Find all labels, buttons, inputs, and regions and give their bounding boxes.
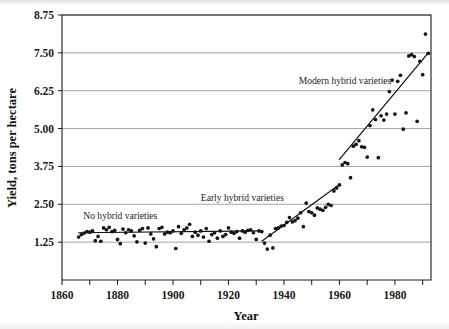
chart-annotation: Early hybrid varieties: [201, 192, 284, 203]
data-point: [357, 139, 361, 143]
data-point: [363, 146, 367, 150]
data-point: [321, 208, 325, 212]
data-point: [374, 118, 378, 122]
data-point: [329, 204, 333, 208]
data-point: [304, 201, 308, 205]
data-point: [177, 225, 181, 229]
data-point: [426, 52, 430, 56]
y-axis-tick-labels: 1.252.503.755.006.257.508.75: [34, 9, 54, 248]
data-point: [354, 142, 358, 146]
data-point: [399, 73, 403, 77]
yield-scatter-chart: 1.252.503.755.006.257.508.75 18601880190…: [0, 0, 449, 329]
data-point: [116, 238, 120, 242]
data-point: [413, 55, 417, 59]
data-point: [105, 228, 109, 232]
data-point: [368, 124, 372, 128]
x-axis-tick-label: 1900: [161, 289, 184, 301]
x-axis-ticks: [58, 15, 423, 285]
data-point: [310, 211, 314, 215]
data-point: [249, 228, 253, 232]
data-point: [113, 228, 117, 232]
data-point: [96, 235, 100, 239]
data-point: [382, 118, 386, 122]
x-axis-title: Year: [234, 309, 259, 323]
data-point: [141, 227, 145, 231]
data-point: [254, 238, 258, 242]
data-point: [401, 127, 405, 131]
y-axis-tick-label: 8.75: [34, 9, 54, 21]
x-axis-tick-labels: 1860188019001920194019601980: [51, 289, 407, 301]
data-point: [349, 176, 353, 180]
data-point: [418, 59, 422, 63]
data-point: [252, 231, 256, 235]
data-point: [324, 205, 328, 209]
x-axis-tick-label: 1940: [272, 289, 295, 301]
data-point: [218, 229, 222, 233]
data-point: [146, 226, 150, 230]
data-point: [216, 236, 220, 240]
data-point: [77, 235, 81, 239]
data-point: [385, 112, 389, 116]
x-axis-tick-label: 1920: [217, 289, 240, 301]
data-point: [313, 213, 317, 217]
data-point: [332, 189, 336, 193]
data-point: [107, 225, 111, 229]
data-point: [204, 227, 208, 231]
data-point: [118, 242, 122, 246]
data-point: [238, 236, 242, 240]
data-point: [191, 235, 195, 239]
data-point: [365, 155, 369, 159]
data-point: [335, 186, 339, 190]
data-point: [132, 234, 136, 238]
data-point: [263, 241, 267, 245]
y-axis-tick-label: 1.25: [34, 236, 54, 248]
data-point: [371, 108, 375, 112]
y-axis-title: Yield, tons per hectare: [5, 88, 19, 208]
data-point: [160, 225, 164, 229]
data-point: [396, 79, 400, 83]
data-point: [224, 233, 228, 237]
data-point: [340, 163, 344, 167]
chart-annotation: No hybrid varieties: [83, 210, 157, 221]
data-point: [121, 227, 125, 231]
data-point: [143, 241, 147, 245]
data-point: [213, 231, 217, 235]
data-point: [193, 230, 197, 234]
data-point: [379, 114, 383, 118]
data-point: [424, 32, 428, 36]
y-axis-tick-label: 2.50: [34, 198, 54, 210]
data-point: [179, 232, 183, 236]
data-point: [188, 222, 192, 226]
data-point: [282, 224, 286, 228]
annotations-group: No hybrid varietiesEarly hybrid varietie…: [83, 75, 391, 220]
data-point: [196, 233, 200, 237]
data-point: [265, 247, 269, 251]
data-point: [154, 245, 158, 249]
y-axis-tick-label: 3.75: [34, 160, 54, 172]
trend-line: [339, 53, 428, 160]
data-point: [152, 237, 156, 241]
data-point: [404, 111, 408, 115]
data-point: [130, 229, 134, 233]
data-point: [185, 226, 189, 230]
x-axis-tick-label: 1880: [106, 289, 129, 301]
data-point: [91, 229, 95, 233]
data-point: [93, 239, 97, 243]
y-axis-tick-label: 7.50: [34, 47, 54, 59]
data-point: [288, 216, 292, 220]
chart-annotation: Modern hybrid varieties: [299, 75, 392, 86]
data-point: [99, 239, 103, 243]
data-point: [296, 216, 300, 220]
data-point: [235, 230, 239, 234]
data-point: [415, 119, 419, 123]
data-point: [171, 229, 175, 233]
data-point: [227, 226, 231, 230]
x-axis-tick-label: 1860: [51, 289, 74, 301]
data-point: [302, 225, 306, 229]
data-point: [271, 246, 275, 250]
x-axis-tick-label: 1960: [328, 289, 351, 301]
data-point: [207, 239, 211, 243]
data-point: [135, 240, 139, 244]
data-point: [388, 90, 392, 94]
data-point: [393, 112, 397, 116]
